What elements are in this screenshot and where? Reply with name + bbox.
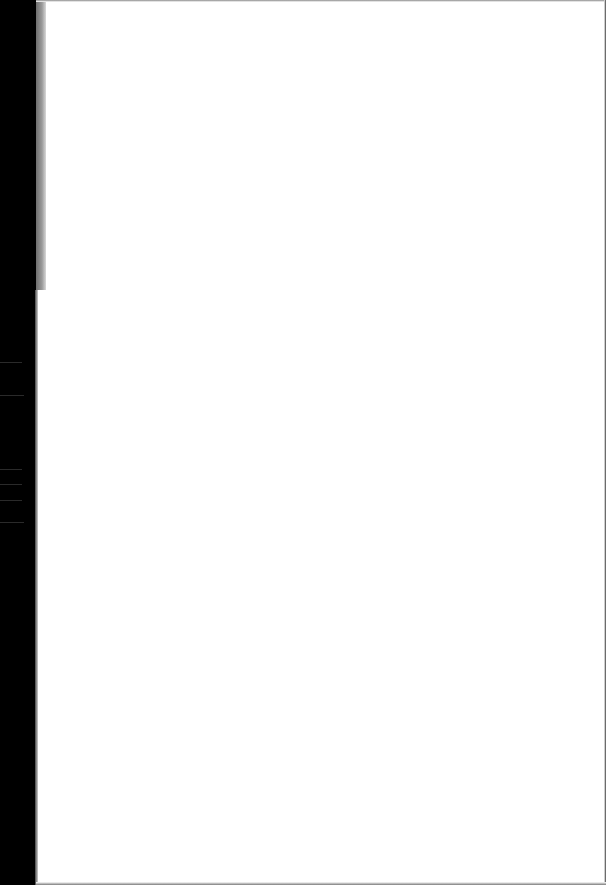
scanner-artifact-line bbox=[0, 362, 22, 363]
page-edge-shadow bbox=[36, 0, 46, 290]
scanner-left-border bbox=[0, 0, 36, 885]
scanner-artifact-line bbox=[0, 522, 24, 523]
page-edge-lower bbox=[35, 290, 38, 885]
scanner-artifact-line bbox=[0, 484, 22, 485]
page-top-edge bbox=[36, 0, 606, 2]
scanner-artifact-line bbox=[0, 469, 22, 470]
scanned-page bbox=[0, 0, 606, 885]
scanner-artifact-line bbox=[0, 395, 24, 396]
blank-page-body bbox=[46, 4, 602, 881]
scanner-artifact-line bbox=[0, 500, 22, 501]
